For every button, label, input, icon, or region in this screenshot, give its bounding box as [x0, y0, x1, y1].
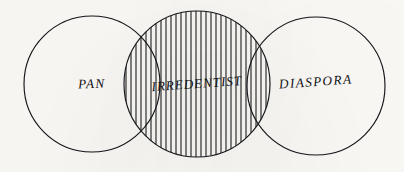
- label-diaspora: DIASPORA: [278, 71, 353, 91]
- venn-diagram-canvas: PAN IRREDENTIST DIASPORA: [0, 0, 404, 172]
- venn-diagram-figure: PAN IRREDENTIST DIASPORA: [0, 0, 404, 172]
- label-irredentist: IRREDENTIST: [150, 73, 243, 94]
- label-pan: PAN: [77, 76, 106, 92]
